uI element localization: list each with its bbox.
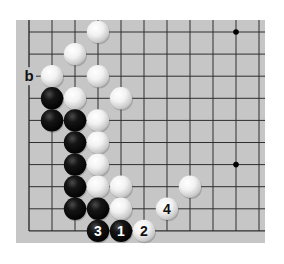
point-label: b (24, 67, 33, 84)
go-board: b 4312 (0, 0, 284, 264)
star-point (233, 162, 239, 168)
go-diagram: b 4312 (0, 0, 284, 264)
move-number: 1 (117, 223, 125, 239)
move-number: 3 (94, 223, 102, 239)
star-point (233, 29, 239, 35)
point-labels: b (22, 67, 36, 85)
move-number: 4 (163, 201, 171, 217)
move-number: 2 (140, 223, 148, 239)
